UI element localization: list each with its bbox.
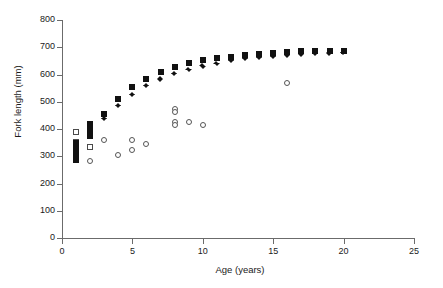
data-point-filled-square xyxy=(284,49,290,55)
y-tick-label: 700 xyxy=(0,42,55,51)
x-tick-label: 25 xyxy=(399,246,429,256)
data-point-filled-square xyxy=(186,60,192,66)
data-point-filled-square xyxy=(312,48,318,54)
x-tick-mark xyxy=(62,239,63,244)
data-point-filled-diamond xyxy=(214,63,220,66)
scatter-plot-figure: 0100200300400500600700800 0510152025 For… xyxy=(0,0,443,288)
y-axis-title: Fork length (mm) xyxy=(12,37,23,167)
data-point-filled-square xyxy=(341,48,347,54)
y-tick-label: 800 xyxy=(0,15,55,24)
data-point-filled-square xyxy=(172,64,178,70)
plot-data-area xyxy=(62,20,414,238)
data-point-filled-diamond xyxy=(242,58,248,61)
data-point-filled-square xyxy=(214,55,220,61)
data-point-filled-square xyxy=(129,84,135,90)
data-point-filled-diamond xyxy=(143,85,149,88)
data-point-filled-diamond xyxy=(101,118,107,121)
x-tick-label: 5 xyxy=(117,246,147,256)
x-tick-mark xyxy=(273,239,274,244)
data-point-filled-square xyxy=(143,76,149,82)
data-point-filled-diamond xyxy=(129,94,135,97)
y-tick-label: 600 xyxy=(0,70,55,79)
data-point-filled-diamond xyxy=(270,56,276,59)
y-tick-label: 200 xyxy=(0,179,55,188)
data-point-filled-square xyxy=(256,51,262,57)
y-tick-label-text: 100 xyxy=(7,206,55,215)
x-tick-label: 0 xyxy=(47,246,77,256)
x-tick-mark xyxy=(132,239,133,244)
data-point-filled-square xyxy=(87,133,93,139)
data-point-filled-square xyxy=(115,96,121,102)
data-point-filled-diamond xyxy=(157,79,163,82)
x-axis-line xyxy=(62,238,415,239)
x-tick-mark xyxy=(344,239,345,244)
data-point-filled-diamond xyxy=(200,66,206,69)
data-point-filled-square xyxy=(228,54,234,60)
x-tick-label: 20 xyxy=(329,246,359,256)
data-point-filled-diamond xyxy=(115,105,121,108)
data-point-filled-diamond xyxy=(228,60,234,63)
data-point-filled-square xyxy=(158,69,164,75)
data-point-filled-square xyxy=(73,157,79,163)
data-point-open-circle xyxy=(172,122,178,128)
y-tick-label: 500 xyxy=(0,97,55,106)
data-point-filled-diamond xyxy=(256,57,262,60)
data-point-filled-square xyxy=(200,57,206,63)
data-point-filled-square xyxy=(270,50,276,56)
data-point-open-square xyxy=(87,144,93,150)
data-point-filled-diamond xyxy=(284,55,290,58)
x-axis-title: Age (years) xyxy=(140,264,340,275)
data-point-filled-square xyxy=(242,52,248,58)
data-point-filled-diamond xyxy=(186,69,192,72)
y-tick-label: 400 xyxy=(0,124,55,133)
x-tick-mark xyxy=(414,239,415,244)
data-point-filled-diamond xyxy=(171,73,177,76)
x-tick-mark xyxy=(203,239,204,244)
data-point-open-circle xyxy=(186,119,192,125)
y-tick-label: 100 xyxy=(0,206,55,215)
data-point-open-square xyxy=(73,129,79,135)
y-tick-label: 300 xyxy=(0,151,55,160)
data-point-filled-square xyxy=(298,48,304,54)
x-tick-label: 10 xyxy=(188,246,218,256)
data-point-open-circle xyxy=(200,122,206,128)
data-point-filled-square xyxy=(327,48,333,54)
y-tick-label: 0 xyxy=(0,233,55,242)
x-tick-label: 15 xyxy=(258,246,288,256)
data-point-filled-square xyxy=(101,111,107,117)
y-tick-label-text: 800 xyxy=(7,15,55,24)
y-tick-label-text: 200 xyxy=(7,179,55,188)
y-tick-label-text: 0 xyxy=(7,233,55,242)
